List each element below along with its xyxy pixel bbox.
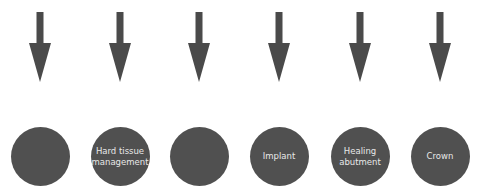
down-arrow-icon	[267, 12, 291, 82]
step-label: Crown	[427, 151, 454, 162]
step-label: Implant	[263, 151, 295, 162]
step-label: Hard tissue management	[92, 146, 149, 168]
down-arrow-icon	[428, 12, 452, 82]
step-label: Healing abutment	[334, 146, 387, 168]
down-arrow-icon	[28, 12, 52, 82]
step-circle: Crown	[411, 127, 470, 186]
step-circle: Hard tissue management	[91, 127, 150, 186]
step-circle	[170, 127, 229, 186]
step-circle: Implant	[250, 127, 309, 186]
down-arrow-icon	[348, 12, 372, 82]
down-arrow-icon	[187, 12, 211, 82]
step-circle: Healing abutment	[331, 127, 390, 186]
down-arrow-icon	[108, 12, 132, 82]
step-circle	[11, 127, 70, 186]
